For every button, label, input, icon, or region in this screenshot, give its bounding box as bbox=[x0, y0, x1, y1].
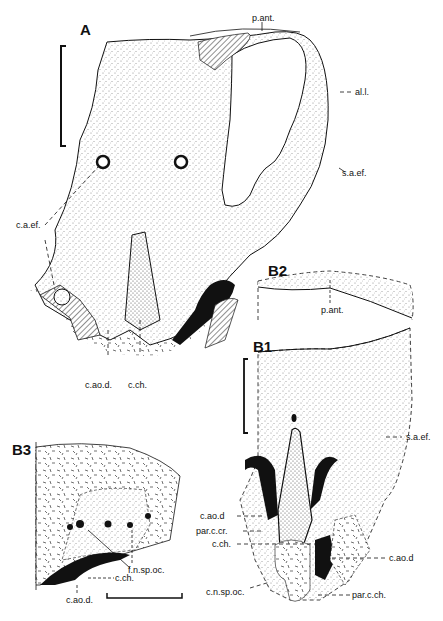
label-a-c-ao-d: c.ao.d. bbox=[85, 380, 112, 390]
scale-bar-a bbox=[61, 46, 66, 146]
label-a-al-l: al.l. bbox=[355, 87, 369, 97]
label-b2-p-ant: p.ant. bbox=[321, 305, 344, 315]
label-b1-c-ao-d-left: c.ao.d bbox=[200, 511, 225, 521]
label-a-s-a-ef: s.a.ef. bbox=[342, 168, 367, 178]
label-b1-c-ch: c.ch. bbox=[212, 539, 231, 549]
panel-label-b2: B2 bbox=[268, 263, 287, 279]
panel-label-b1: B1 bbox=[253, 339, 272, 355]
label-b1-c-ao-d-right: c.ao.d bbox=[389, 553, 414, 563]
panel-label-a: A bbox=[80, 22, 91, 38]
panel-label-b3: B3 bbox=[12, 442, 31, 458]
scale-bar-b3 bbox=[107, 593, 182, 598]
scale-bar-b1 bbox=[244, 359, 248, 433]
label-b1-c-n-sp-oc: c.n.sp.oc. bbox=[206, 587, 245, 597]
label-b1-par-c-ch: par.c.ch. bbox=[352, 590, 386, 600]
label-b1-s-a-ef: s.a.ef. bbox=[406, 432, 431, 442]
label-b3-c-ch: c.ch. bbox=[115, 573, 134, 583]
label-b3-c-ao-d: c.ao.d. bbox=[66, 595, 93, 605]
panel-b1-drawing bbox=[237, 328, 412, 601]
panel-a-drawing bbox=[30, 22, 354, 356]
label-a-c-a-ef: c.a.ef. bbox=[16, 220, 41, 230]
label-a-c-ch: c.ch. bbox=[128, 380, 147, 390]
label-a-p-ant: p.ant. bbox=[252, 13, 275, 23]
label-b1-par-c-cr: par.c.cr. bbox=[196, 526, 228, 536]
